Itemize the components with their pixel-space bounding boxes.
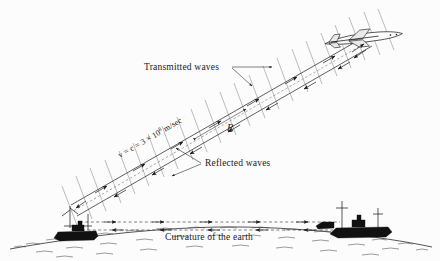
reflected-waves-label: Reflected waves <box>205 158 271 168</box>
diagram-canvas: R v = c = 3 × 108 m/sec Transmitted wave… <box>0 0 440 261</box>
radar-diagram-figure: R v = c = 3 × 108 m/sec Transmitted wave… <box>0 0 440 261</box>
transmitted-waves-label: Transmitted waves <box>144 62 219 72</box>
curvature-caption: Curvature of the earth <box>165 232 253 242</box>
range-label: R <box>226 122 234 133</box>
